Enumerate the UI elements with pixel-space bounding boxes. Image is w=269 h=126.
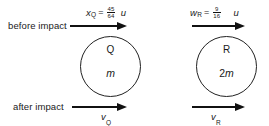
arrow-head [117, 22, 127, 30]
before-impact-arrow-r [192, 22, 246, 31]
velocity-subscript-r: R [197, 12, 202, 19]
body-circle-r: R 2m [196, 36, 257, 97]
velocity-unit-q: u [121, 8, 126, 18]
velocity-symbol-r: w [190, 8, 197, 18]
arrow-shaft [72, 106, 119, 108]
body-mass-symbol-q: m [106, 67, 115, 79]
before-velocity-expression-r: wR = 9 16 u [190, 6, 239, 20]
arrow-shaft [192, 106, 237, 108]
velocity-unit-r: u [234, 8, 239, 18]
arrow-head [235, 103, 245, 111]
fraction-r: 9 16 [213, 6, 221, 20]
equals-sign-q: = [98, 8, 103, 17]
body-name-q: Q [81, 44, 140, 55]
after-velocity-label-q: vQ [101, 111, 111, 124]
after-velocity-subscript-q: Q [106, 119, 111, 126]
body-mass-symbol-r: m [225, 67, 234, 79]
after-velocity-subscript-r: R [216, 119, 221, 126]
after-impact-label: after impact [13, 101, 64, 112]
fraction-denominator-q: 64 [107, 12, 115, 19]
fraction-denominator-r: 16 [213, 12, 221, 19]
arrow-head [117, 103, 127, 111]
before-velocity-expression-q: xQ = 45 64 u [86, 6, 126, 20]
after-impact-arrow-q [72, 103, 128, 112]
velocity-subscript-q: Q [91, 12, 96, 19]
body-mass-q: m [81, 67, 140, 79]
arrow-head [235, 22, 245, 30]
body-circle-q: Q m [80, 36, 141, 97]
collision-diagram: before impact after impact xQ = 45 64 u … [0, 0, 269, 126]
after-velocity-label-r: vR [211, 111, 220, 124]
velocity-symbol-q: x [86, 8, 91, 18]
arrow-shaft [70, 25, 119, 27]
body-name-r: R [197, 44, 256, 55]
body-mass-r: 2m [197, 67, 256, 79]
arrow-shaft [192, 25, 237, 27]
fraction-q: 45 64 [107, 6, 115, 20]
before-impact-arrow-q [70, 22, 128, 31]
before-impact-label: before impact [8, 20, 67, 31]
equals-sign-r: = [204, 8, 209, 17]
